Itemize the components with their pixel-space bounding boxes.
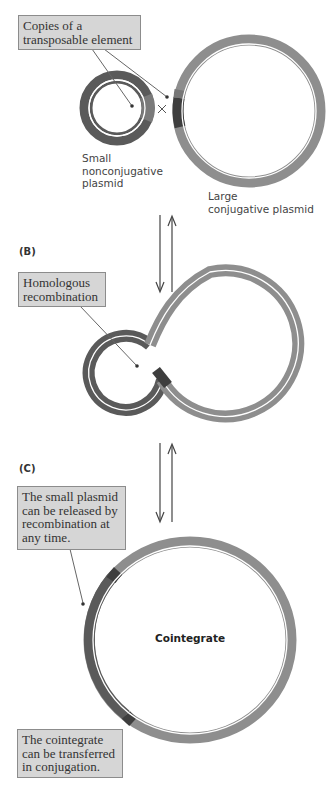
label-line: nonconjugative: [82, 165, 163, 178]
label-line: conjugative plasmid: [208, 203, 314, 216]
callout-cointegrate-transfer: The cointegrate can be transferred in co…: [17, 729, 123, 778]
label-line: plasmid: [82, 177, 163, 190]
callout-small-plasmid-release: The small plasmid can be released by rec…: [17, 486, 126, 550]
equilibrium-arrows-bc: [156, 443, 176, 522]
callout-homologous-recombination: Homologous recombination: [18, 272, 106, 307]
crossover-x-icon: [158, 105, 166, 113]
callout-leader-line-c: [70, 549, 85, 606]
large-plasmid-label: Large conjugative plasmid: [208, 190, 314, 215]
label-line: Large: [208, 190, 314, 203]
plasmid-diagram: [0, 0, 329, 791]
label-line: Small: [82, 152, 163, 165]
small-nonconjugative-plasmid: [86, 77, 148, 139]
cointegrate-label: Cointegrate: [155, 632, 225, 644]
large-conjugative-plasmid: [178, 40, 320, 182]
panel-label-c: (C): [19, 463, 35, 474]
panel-label-b: (B): [19, 246, 36, 257]
callout-transposable-element: Copies of a transposable element: [18, 15, 141, 50]
small-plasmid-label: Small nonconjugative plasmid: [82, 152, 163, 190]
recombination-intermediate: [89, 270, 298, 416]
equilibrium-arrows-ab: [156, 215, 176, 292]
